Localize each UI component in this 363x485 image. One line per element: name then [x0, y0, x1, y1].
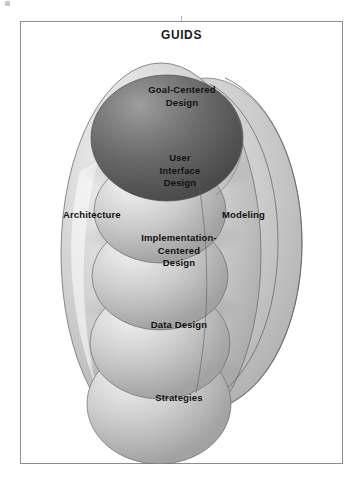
guids-diagram: GUIDS	[0, 0, 363, 485]
scan-artifact-dot	[5, 1, 10, 6]
sphere-goal-centered-design[interactable]	[91, 75, 243, 201]
diagram-canvas	[20, 21, 343, 464]
diagram-svg	[20, 21, 343, 464]
